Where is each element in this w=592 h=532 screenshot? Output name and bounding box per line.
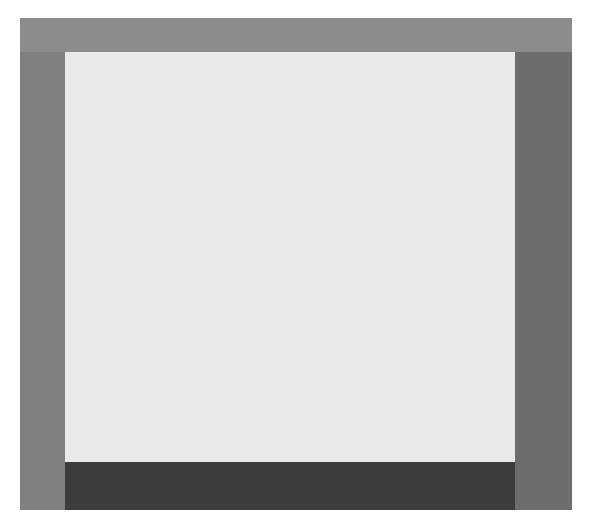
chart-title-bar: [20, 18, 572, 52]
plot-svg: [65, 52, 515, 462]
plot-area: [65, 52, 515, 462]
y-axis-band: [20, 52, 65, 510]
percentile-band: [515, 52, 572, 510]
bmi-chart-frame: [20, 18, 572, 510]
x-axis-band: [65, 462, 515, 510]
percentile-axis-title: [515, 356, 572, 506]
